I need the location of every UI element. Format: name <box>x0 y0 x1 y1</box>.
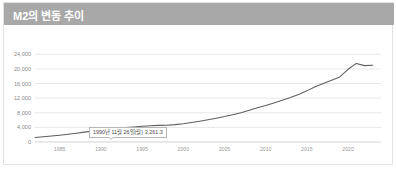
x-axis-tick-label: 1995 <box>136 146 148 152</box>
line-chart-svg: 04,0008,00012,00016,00020,00024,000 1985… <box>4 25 392 164</box>
y-axis-tick-label: 0 <box>28 139 31 145</box>
y-axis-tick-label: 20,000 <box>14 66 31 72</box>
annotation-label: 1990년 11월 26일(월) 3,261.3 <box>93 128 163 137</box>
x-axis-tick-label: 2005 <box>219 146 231 152</box>
x-axis-tick-label: 2010 <box>260 146 272 152</box>
chart-screenshot: M2의 변동 추이 04,0008,00012,00016,00020,0002… <box>0 0 396 176</box>
data-line-m2 <box>35 63 373 137</box>
x-axis-tick-label: 2015 <box>301 146 313 152</box>
chart-card: M2의 변동 추이 04,0008,00012,00016,00020,0002… <box>3 2 393 165</box>
y-axis-tick-label: 4,000 <box>17 124 31 130</box>
y-axis-tick-label: 16,000 <box>14 81 31 87</box>
x-axis-tick-label: 2020 <box>342 146 354 152</box>
page-title: M2의 변동 추이 <box>13 7 84 23</box>
y-axis-tick-label: 8,000 <box>17 110 31 116</box>
annotation-callout: 1990년 11월 26일(월) 3,261.3 <box>89 127 167 138</box>
y-axis-tick-label: 12,000 <box>14 95 31 101</box>
chart-header-bar: M2의 변동 추이 <box>4 3 394 25</box>
y-axis-tick-labels: 04,0008,00012,00016,00020,00024,000 <box>14 51 31 145</box>
annotation-pointer-fill-icon <box>109 137 113 139</box>
chart-plot-area: 04,0008,00012,00016,00020,00024,000 1985… <box>4 25 392 164</box>
x-axis-tick-labels: 19851990199520002005201020152020 <box>54 146 354 152</box>
x-axis-tick-label: 2000 <box>178 146 190 152</box>
gridlines-group <box>35 54 381 142</box>
y-axis-tick-label: 24,000 <box>14 51 31 57</box>
x-axis-tick-label: 1990 <box>95 146 107 152</box>
x-axis-tick-label: 1985 <box>54 146 66 152</box>
